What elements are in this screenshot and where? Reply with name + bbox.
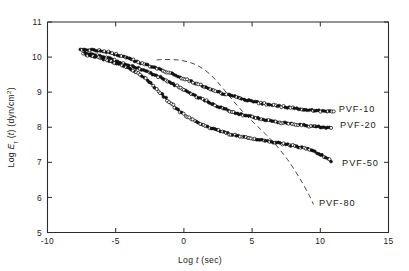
figure-container: -10-5051015567891011 PVF-10PVF-20PVF-50P…	[0, 0, 409, 271]
series-label-pvf-20: PVF-20	[340, 120, 377, 130]
series-label-pvf-10: PVF-10	[339, 104, 376, 114]
x-tick-label: 10	[315, 236, 325, 246]
y-tick-label: 11	[33, 17, 43, 27]
data-point	[182, 112, 185, 115]
y-tick-label: 8	[37, 122, 42, 132]
x-tick-label: 5	[250, 236, 255, 246]
data-point	[149, 81, 152, 84]
data-markers	[79, 48, 335, 163]
x-tick-label: 15	[383, 236, 393, 246]
data-point	[161, 93, 164, 96]
x-tick-label: -10	[41, 236, 54, 246]
series-annotations: PVF-10PVF-20PVF-50PVF-80	[319, 104, 379, 207]
data-point	[165, 96, 168, 99]
data-point	[330, 160, 333, 163]
y-tick-label: 10	[32, 52, 42, 62]
y-axis-title: Log Er (t) (dyn/cm2)	[5, 87, 19, 167]
y-tick-label: 7	[37, 157, 42, 167]
x-axis-title: Log t (sec)	[178, 255, 222, 265]
data-point	[332, 110, 335, 113]
x-tick-label: -5	[112, 236, 120, 246]
series-curve-pvf-80	[157, 59, 314, 204]
series-label-pvf-80: PVF-80	[319, 198, 356, 208]
data-point	[330, 126, 333, 129]
y-tick-label: 5	[37, 228, 42, 238]
y-tick-label: 9	[37, 87, 42, 97]
stress-relaxation-chart: -10-5051015567891011 PVF-10PVF-20PVF-50P…	[0, 0, 409, 271]
x-tick-label: 0	[181, 236, 186, 246]
series-label-pvf-50: PVF-50	[342, 158, 379, 168]
y-tick-label: 6	[37, 193, 42, 203]
